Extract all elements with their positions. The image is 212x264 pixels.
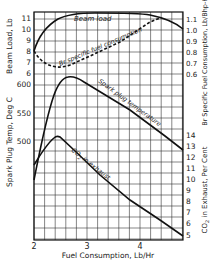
bsfc-ticks: 1.1 1.0 0.9 0.8 0.7 0.6 xyxy=(186,16,198,79)
temp-tick: 550 xyxy=(17,109,32,118)
co2-tick: 6 xyxy=(186,219,191,228)
beam-tick: 11 xyxy=(21,14,31,23)
bsfc-tick: 0.6 xyxy=(186,71,198,79)
beam-tick: 9 xyxy=(26,36,31,45)
bsfc-axis-label: Br Specific Fuel Consumption, Lb/Bhp-Hr xyxy=(201,0,209,126)
bsfc-tick: 0.8 xyxy=(186,49,197,57)
spark-plug-temperature-curve xyxy=(34,77,183,180)
bsfc-tick: 0.7 xyxy=(186,60,197,68)
x-tick: 4 xyxy=(137,242,142,251)
co2-ticks: 14 13 12 11 10 9 8 7 6 5 xyxy=(186,131,196,240)
co2-axis-label: CO2 in Exhaust, Per Cent xyxy=(201,146,210,233)
co2-tick: 11 xyxy=(186,164,196,173)
co2-tick: 12 xyxy=(186,153,196,162)
temp-tick: 600 xyxy=(17,80,32,89)
x-tick: 2 xyxy=(31,242,36,251)
co2-tick: 14 xyxy=(186,131,196,140)
temp-ticks: 600 550 500 xyxy=(17,80,32,146)
x-axis-label: Fuel Consumption, Lb/Hr xyxy=(62,251,155,260)
bsfc-label: Br specific fuel consumption xyxy=(58,26,143,68)
beam-load-axis-label: Beam Load, Lb xyxy=(5,18,14,74)
bsfc-tick: 0.9 xyxy=(186,38,197,46)
bsfc-curve xyxy=(34,18,160,67)
x-axis-ticks: 2 3 4 xyxy=(31,242,142,251)
engine-performance-chart: Beam load Br specific fuel consumption S… xyxy=(0,0,212,264)
beam-tick: 8 xyxy=(26,47,31,56)
co2-tick: 10 xyxy=(186,175,196,184)
beam-tick: 7 xyxy=(26,58,31,67)
bsfc-tick: 1.1 xyxy=(186,16,197,24)
co2-tick: 13 xyxy=(186,142,196,151)
temp-axis-label: Spark Plug Temp, Deg C xyxy=(5,97,14,187)
co2-tick: 7 xyxy=(186,208,191,217)
co2-tick: 9 xyxy=(186,186,191,195)
co2-label: CO2 in exhaust xyxy=(69,146,112,182)
bsfc-tick: 1.0 xyxy=(186,27,197,35)
co2-tick: 5 xyxy=(186,231,191,240)
x-tick: 3 xyxy=(84,242,89,251)
beam-tick: 10 xyxy=(21,25,31,34)
beam-load-ticks: 11 10 9 8 7 6 xyxy=(21,14,31,78)
co2-tick: 8 xyxy=(186,197,191,206)
beam-tick: 6 xyxy=(26,69,31,78)
temp-tick: 500 xyxy=(17,137,32,146)
beam-load-label: Beam load xyxy=(74,15,112,23)
